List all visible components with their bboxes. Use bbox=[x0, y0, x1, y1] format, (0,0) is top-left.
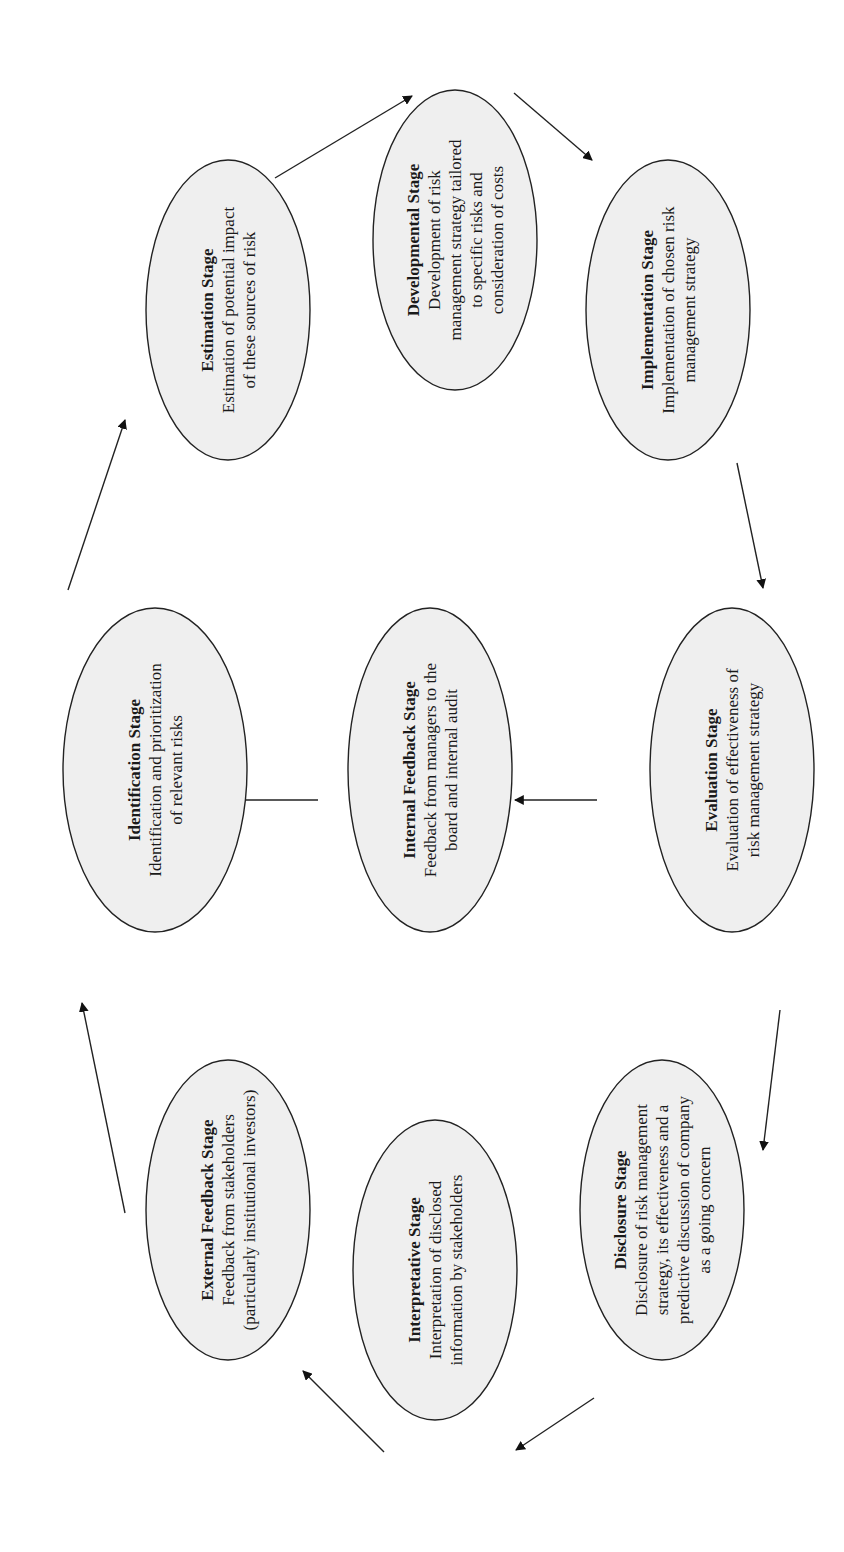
stage-title: Developmental Stage bbox=[403, 139, 424, 340]
stage-description-line: management strategy tailored bbox=[445, 139, 466, 340]
stage-label-external-feedback: External Feedback StageFeedback from sta… bbox=[197, 1090, 260, 1331]
stage-label-identification: Identification StageIdentification and p… bbox=[124, 663, 187, 876]
stage-label-developmental: Developmental StageDevelopment of riskma… bbox=[403, 139, 508, 340]
stage-label-internal-feedback: Internal Feedback StageFeedback from man… bbox=[399, 663, 462, 877]
stage-description-line: Evaluation of effectiveness of bbox=[722, 668, 743, 871]
stage-title: Implementation Stage bbox=[637, 206, 658, 413]
stage-description-line: information by stakeholders bbox=[446, 1175, 467, 1366]
stage-description-line: management strategy bbox=[679, 206, 700, 413]
arrow-disclosure-to-interpretative bbox=[516, 1398, 594, 1450]
stage-label-disclosure: Disclosure StageDisclosure of risk manag… bbox=[610, 1096, 715, 1324]
stage-title: Identification Stage bbox=[124, 663, 145, 876]
stage-description-line: of these sources of risk bbox=[239, 207, 260, 413]
stage-label-estimation: Estimation StageEstimation of potential … bbox=[197, 207, 260, 413]
stage-description-line: Disclosure of risk management bbox=[631, 1096, 652, 1324]
arrow-developmental-to-implementation bbox=[514, 93, 592, 160]
stage-description-line: Estimation of potential impact bbox=[218, 207, 239, 413]
stage-description-line: strategy, its effectiveness and a bbox=[652, 1096, 673, 1324]
stage-label-evaluation: Evaluation StageEvaluation of effectiven… bbox=[701, 668, 764, 871]
stage-description-line: (particularly institutional investors) bbox=[239, 1090, 260, 1331]
stage-title: Interpretative Stage bbox=[404, 1175, 425, 1366]
stage-description-line: to specific risks and bbox=[466, 139, 487, 340]
stage-description-line: of relevant risks bbox=[166, 663, 187, 876]
arrow-external-feedback-to-identification bbox=[82, 1003, 125, 1213]
arrow-interpretative-to-external-feedback bbox=[303, 1371, 384, 1452]
stage-description-line: consideration of costs bbox=[487, 139, 508, 340]
stage-description-line: predictive discussion of company bbox=[673, 1096, 694, 1324]
stage-description-line: Identification and prioritization bbox=[145, 663, 166, 876]
stage-title: Internal Feedback Stage bbox=[399, 663, 420, 877]
stage-description-line: Feedback from managers to the bbox=[420, 663, 441, 877]
stage-title: Disclosure Stage bbox=[610, 1096, 631, 1324]
arrow-identification-to-estimation bbox=[68, 420, 125, 590]
stage-title: Estimation Stage bbox=[197, 207, 218, 413]
stage-label-implementation: Implementation StageImplementation of ch… bbox=[637, 206, 700, 413]
stage-description-line: Development of risk bbox=[424, 139, 445, 340]
stage-description-line: risk management strategy bbox=[743, 668, 764, 871]
stage-title: External Feedback Stage bbox=[197, 1090, 218, 1331]
stage-description-line: as a going concern bbox=[694, 1096, 715, 1324]
arrow-evaluation-to-disclosure bbox=[763, 1010, 780, 1150]
stage-description-line: Implementation of chosen risk bbox=[658, 206, 679, 413]
stage-description-line: Interpretation of disclosed bbox=[425, 1175, 446, 1366]
stage-label-interpretative: Interpretative StageInterpretation of di… bbox=[404, 1175, 467, 1366]
stage-description-line: board and internal audit bbox=[441, 663, 462, 877]
arrow-implementation-to-evaluation bbox=[737, 463, 763, 588]
stage-description-line: Feedback from stakeholders bbox=[218, 1090, 239, 1331]
stage-title: Evaluation Stage bbox=[701, 668, 722, 871]
